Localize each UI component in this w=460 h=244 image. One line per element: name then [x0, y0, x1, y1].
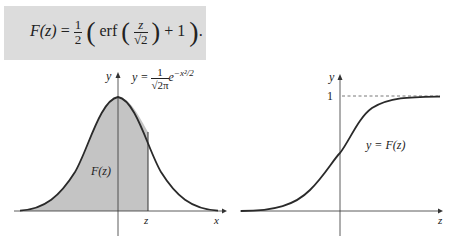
- cdf-chart: [240, 74, 443, 236]
- cdf-curve: [241, 97, 440, 212]
- one-tick-label: 1: [327, 89, 333, 104]
- left-x-label: x: [214, 214, 219, 226]
- right-z-label: z: [438, 214, 442, 226]
- charts-canvas: [0, 0, 460, 244]
- area-label: F(z): [91, 164, 111, 179]
- y-axis-arrow-icon: [338, 74, 343, 80]
- density-formula: y = 1 √2π e−x²/2: [132, 66, 194, 91]
- left-y-label: y: [106, 69, 111, 84]
- left-z-tick-label: z: [144, 214, 148, 226]
- right-y-label: y: [329, 70, 334, 85]
- cdf-curve-label: y = F(z): [366, 138, 405, 153]
- x-axis-arrow-icon: [222, 209, 227, 214]
- z-axis-arrow-icon: [438, 209, 443, 214]
- y-axis-arrow-icon: [116, 72, 121, 78]
- density-chart: [14, 72, 227, 236]
